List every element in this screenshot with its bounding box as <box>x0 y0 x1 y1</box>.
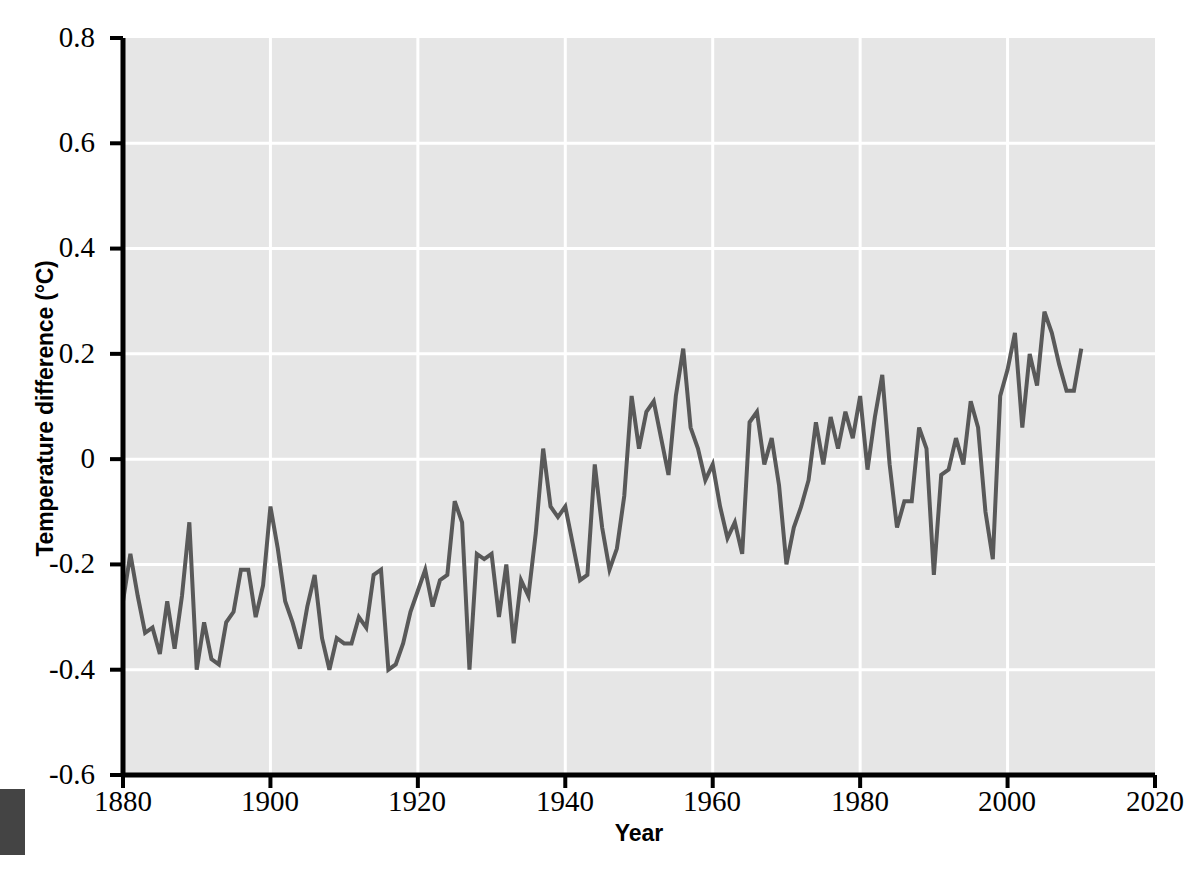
plot-area <box>0 0 1201 886</box>
chart-figure: Temperature difference (°C) Year 0.8 0.6… <box>0 0 1201 886</box>
